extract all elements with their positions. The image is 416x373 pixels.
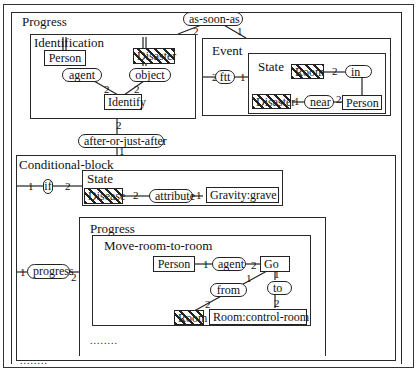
concept-person[interactable]: Person	[153, 256, 195, 272]
relation-agent[interactable]: agent	[212, 257, 246, 271]
relation-agent[interactable]: agent	[62, 68, 102, 82]
relation-object[interactable]: object	[129, 68, 171, 82]
arg-label: 1	[237, 26, 243, 37]
arg-label: 1	[246, 273, 252, 284]
relation-to[interactable]: to	[267, 281, 292, 295]
progress-title: Progress	[22, 15, 67, 29]
arg-label: 1	[203, 259, 209, 270]
arg-label: 2	[71, 272, 77, 283]
event-state-title: State	[258, 60, 284, 74]
event-title: Event	[212, 44, 242, 58]
arg-label: 2	[251, 260, 257, 271]
relation-near[interactable]: near	[304, 95, 334, 109]
concept-disaster[interactable]: Disaster	[133, 48, 175, 64]
concept-room-control-room[interactable]: Room:control-room	[209, 309, 307, 325]
concept-room[interactable]: Room	[174, 310, 204, 325]
conditional-state-title: State	[87, 172, 113, 186]
arg-label: 1	[240, 72, 246, 83]
relation-as-soon-as[interactable]: as-soon-as	[183, 12, 243, 26]
relation-attribute[interactable]: attribute	[149, 189, 193, 203]
arg-label: 2	[336, 94, 342, 105]
relation-ftt[interactable]: ftt	[215, 70, 235, 84]
relation-from[interactable]: from	[210, 283, 247, 297]
concept-person[interactable]: Person	[44, 50, 86, 66]
concept-disaster[interactable]: Disaster	[252, 94, 291, 109]
inner-progress-title: Progress	[90, 222, 135, 236]
relation-in[interactable]: in	[345, 65, 372, 78]
arg-label: 2	[332, 66, 338, 77]
conditional-ellipsis: ........	[20, 356, 48, 366]
arg-label: 1	[20, 267, 26, 278]
arg-label: 1	[294, 96, 300, 107]
arg-label: 2	[116, 120, 122, 131]
identification-title: Identification	[34, 36, 104, 50]
concept-room[interactable]: Room	[291, 64, 324, 79]
arg-label: 1	[274, 269, 280, 280]
concept-gravity-grave[interactable]: Gravity:grave	[206, 187, 279, 203]
relation-if[interactable]: if	[43, 179, 53, 194]
relation-progress[interactable]: progress	[27, 264, 70, 279]
arg-label: 1	[28, 181, 34, 192]
concept-disease[interactable]: Disease	[84, 188, 123, 204]
arg-label: 2	[274, 298, 280, 309]
arg-label: 2	[65, 181, 71, 192]
arg-label: 1	[196, 190, 202, 201]
concept-identify[interactable]: Identify	[104, 94, 142, 110]
move-room-to-room-title: Move-room-to-room	[104, 239, 212, 253]
arg-label: 2	[133, 190, 139, 201]
concept-person[interactable]: Person	[342, 95, 382, 110]
inner-progress-ellipsis: ........	[90, 336, 118, 346]
